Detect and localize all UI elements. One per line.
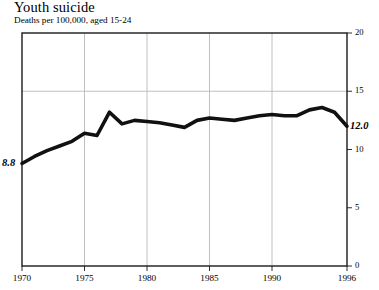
y-tick-label: 0 [355,261,359,270]
plot-frame [22,33,347,266]
data-series-line [22,108,347,164]
x-tick-label: 1975 [65,273,105,283]
gridlines [22,33,347,266]
y-tick-label: 5 [355,203,359,212]
x-tick-label: 1985 [190,273,230,283]
x-tick-label: 1980 [127,273,167,283]
y-tick-label: 15 [355,86,364,95]
x-tick-label: 1970 [2,273,42,283]
start-value-label: 8.8 [2,157,15,168]
plot-area [0,0,379,290]
axis-tick-marks [22,33,352,271]
x-tick-label: 1990 [252,273,292,283]
youth-suicide-chart: Youth suicide Deaths per 100,000, aged 1… [0,0,379,290]
x-tick-label: 1996 [327,273,367,283]
end-value-label: 12.0 [350,120,368,131]
y-tick-label: 10 [355,145,364,154]
y-tick-label: 20 [355,28,364,37]
